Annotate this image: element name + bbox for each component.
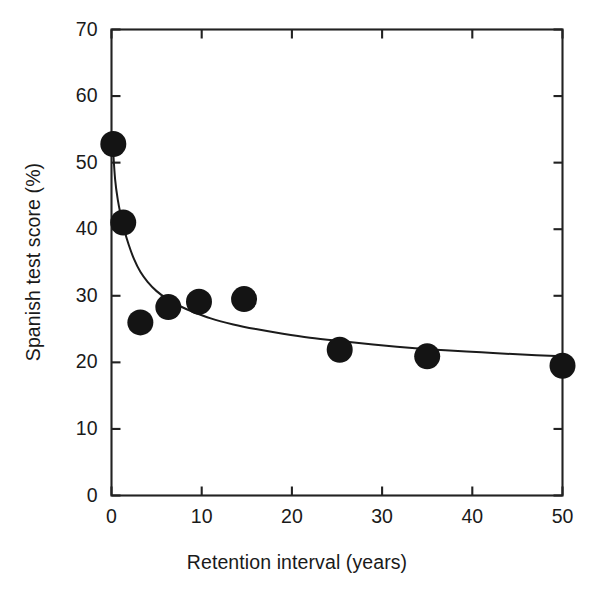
x-tick-label: 0 [90, 505, 134, 528]
x-tick-label: 10 [180, 505, 224, 528]
y-tick-label: 10 [54, 417, 98, 440]
data-point-marker [414, 343, 440, 369]
x-tick-label: 20 [270, 505, 314, 528]
y-tick-label: 60 [54, 84, 98, 107]
y-axis-title: Spanish test score (%) [18, 29, 48, 495]
y-tick-label: 70 [54, 18, 98, 41]
y-tick-label: 30 [54, 284, 98, 307]
data-point-marker [110, 210, 136, 236]
x-tick-label: 40 [450, 505, 494, 528]
x-axis-title: Retention interval (years) [0, 551, 594, 574]
y-tick-label: 0 [54, 484, 98, 507]
data-point-marker [100, 131, 126, 157]
x-tick-label: 30 [360, 505, 404, 528]
data-point-marker [327, 337, 353, 363]
chart-figure: 010203040506070 01020304050 Spanish test… [0, 0, 594, 597]
y-tick-label: 50 [54, 151, 98, 174]
data-point-marker [186, 289, 212, 315]
data-point-marker [231, 286, 257, 312]
y-tick-label: 40 [54, 217, 98, 240]
data-point-marker [550, 353, 576, 379]
data-point-marker [127, 309, 153, 335]
data-point-marker [155, 294, 181, 320]
x-tick-label: 50 [541, 505, 585, 528]
y-tick-label: 20 [54, 350, 98, 373]
